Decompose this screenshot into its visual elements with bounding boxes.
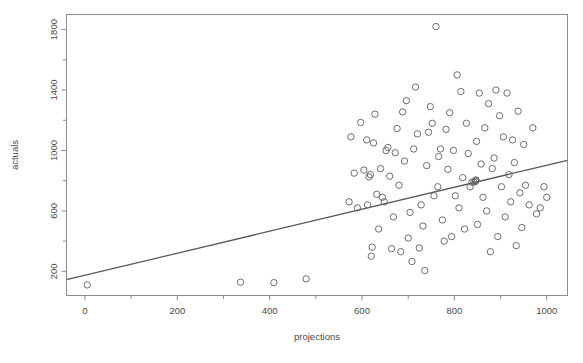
y-tick-label: 200 xyxy=(49,263,60,279)
y-axis-label: actuals xyxy=(9,140,20,170)
y-tick-label: 1800 xyxy=(49,19,60,40)
x-axis-label: projections xyxy=(294,331,340,342)
y-tick-label: 600 xyxy=(49,203,60,219)
y-tick-label: 1000 xyxy=(49,140,60,161)
y-tick-label: 1400 xyxy=(49,79,60,100)
x-tick-label: 800 xyxy=(446,305,462,316)
x-tick-label: 200 xyxy=(169,305,185,316)
x-tick-label: 1000 xyxy=(536,305,557,316)
x-tick-label: 400 xyxy=(262,305,278,316)
plot-canvas: 200600100014001800 02004006008001000 pro… xyxy=(0,0,583,363)
x-tick-label: 600 xyxy=(354,305,370,316)
scatter-plot-figure: 200600100014001800 02004006008001000 pro… xyxy=(0,0,583,363)
x-tick-label: 0 xyxy=(82,305,87,316)
